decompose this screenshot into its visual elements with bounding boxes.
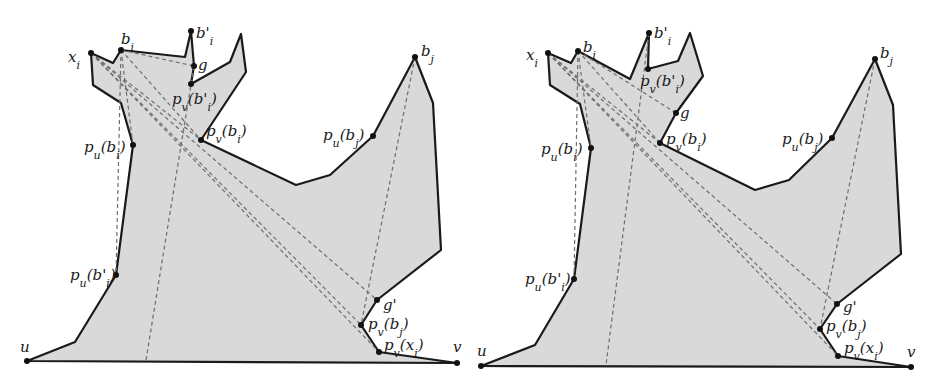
vertex-label: bj bbox=[421, 42, 435, 66]
vertex-point bbox=[130, 142, 136, 148]
right-panel: uvxibib'ipv(b'i)gpv(bi)pu(bi)pu(b'i)bjpu… bbox=[477, 24, 916, 370]
vertex-point bbox=[571, 276, 577, 282]
vertex-point bbox=[872, 56, 878, 62]
vertex-label: v bbox=[907, 343, 916, 361]
vertex-label: xi bbox=[526, 46, 538, 70]
vertex-point bbox=[817, 326, 823, 332]
vertex-label: b'i bbox=[196, 24, 213, 48]
vertex-label: g bbox=[198, 56, 208, 74]
vertex-label: b'i bbox=[654, 24, 671, 48]
vertex-point bbox=[370, 133, 376, 139]
vertex-point bbox=[454, 360, 460, 366]
vertex-label: pu(bi) bbox=[84, 138, 126, 162]
vertex-point bbox=[198, 137, 204, 143]
vertex-label: pv(bj) bbox=[368, 315, 409, 339]
vertex-label: pu(bj) bbox=[323, 126, 365, 150]
vertex-label: bj bbox=[880, 44, 894, 68]
vertex-label: g bbox=[680, 104, 690, 122]
vertex-label: u bbox=[20, 338, 30, 356]
vertex-point bbox=[588, 145, 594, 151]
vertex-label: u bbox=[477, 342, 487, 360]
vertex-point bbox=[88, 50, 94, 56]
vertex-point bbox=[545, 50, 551, 56]
vertex-label: pv(bi) bbox=[206, 122, 247, 146]
vertex-point bbox=[24, 358, 30, 364]
vertex-point bbox=[657, 140, 663, 146]
vertex-point bbox=[374, 297, 380, 303]
vertex-label: pu(bi) bbox=[541, 140, 583, 164]
vertex-point bbox=[191, 63, 197, 69]
vertex-point bbox=[646, 30, 652, 36]
vertex-label: pu(bj) bbox=[782, 130, 824, 154]
vertex-point bbox=[478, 363, 484, 369]
vertex-label: g' bbox=[383, 296, 397, 314]
vertex-point bbox=[575, 48, 581, 54]
vertex-point bbox=[376, 349, 382, 355]
left-panel: uvxibib'igpv(b'i)pv(bi)pu(bi)pu(b'i)bjpu… bbox=[20, 24, 462, 366]
vertex-point bbox=[188, 28, 194, 34]
vertex-label: pu(b'i) bbox=[525, 270, 571, 294]
vertex-point bbox=[834, 301, 840, 307]
vertex-label: pu(b'i) bbox=[70, 266, 116, 290]
vertex-point bbox=[829, 135, 835, 141]
vertex-point bbox=[835, 353, 841, 359]
vertex-label: xi bbox=[68, 48, 80, 72]
vertex-point bbox=[358, 322, 364, 328]
vertex-point bbox=[908, 364, 914, 370]
vertex-point bbox=[673, 110, 679, 116]
diagram-canvas: uvxibib'igpv(b'i)pv(bi)pu(bi)pu(b'i)bjpu… bbox=[0, 0, 937, 390]
vertex-label: v bbox=[453, 338, 462, 356]
vertex-label: pv(bj) bbox=[826, 317, 867, 341]
vertex-label: g' bbox=[843, 298, 857, 316]
vertex-point bbox=[188, 81, 194, 87]
vertex-point bbox=[412, 54, 418, 60]
